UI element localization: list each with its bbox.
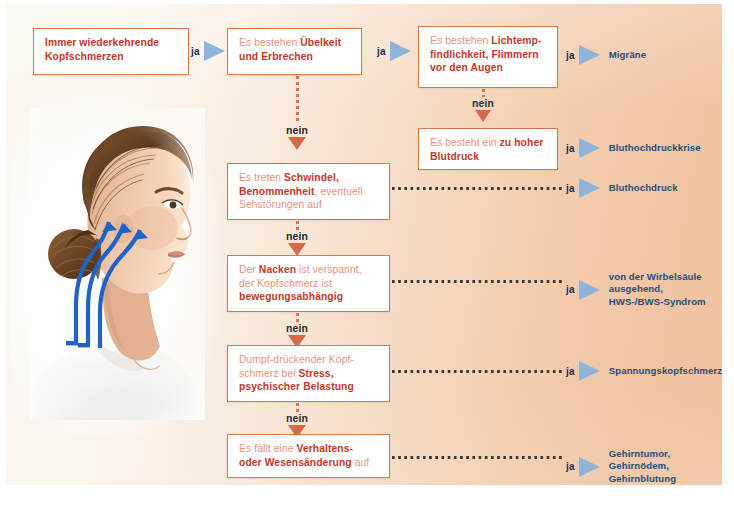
box-stress: Dumpf-drückender Kopf- schmerz bei Stres… <box>227 345 390 402</box>
arrow-right-icon <box>579 280 600 300</box>
box-behaviour-line1: Es fällt eine Verhaltens- <box>239 442 380 456</box>
box-dizziness-line2: Benommenheit, eventuell <box>239 185 380 199</box>
nein-connector-dizziness-to-neck: nein <box>286 221 308 256</box>
box-light-line1: Es bestehen Lichtemp- <box>430 34 548 48</box>
box-stress-line1: Dumpf-drückender Kopf- <box>239 353 380 367</box>
box-nausea-line1: Es bestehen Übelkeit <box>239 36 352 50</box>
box-start: Immer wiederkehrende Kopfschmerzen <box>33 28 189 75</box>
ja-label: ja <box>566 143 575 154</box>
arrow-down-icon <box>288 137 306 150</box>
result-hws-line2: ausgehend, <box>609 283 663 294</box>
result-bluthochdruckkrise: Bluthochdruckkrise <box>609 142 701 154</box>
dotted-line-vertical <box>296 76 299 124</box>
arrow-right-icon <box>579 361 600 381</box>
ja-label: ja <box>566 284 575 295</box>
box-bp-line2: Blutdruck <box>430 150 548 164</box>
box-dizziness: Es treten Schwindel, Benommenheit, event… <box>227 163 390 220</box>
box-bp-line1: Es besteht ein zu hoher <box>430 136 548 150</box>
nein-connector-light-to-bloodpressure: nein <box>472 89 494 122</box>
ja-arrow-to-bluthochdruckkrise: ja Bluthochdruckkrise <box>566 138 701 158</box>
box-neck-line2: der Kopfschmerz ist <box>239 277 380 291</box>
result-migraene: Migräne <box>609 49 646 61</box>
arrow-right-icon <box>579 178 600 198</box>
arrow-right-icon <box>579 138 600 158</box>
box-dizziness-line1: Es treten Schwindel, <box>239 171 380 185</box>
nein-connector-neck-to-stress: nein <box>286 313 308 348</box>
nein-connector-nausea-to-dizziness: nein <box>286 76 308 150</box>
ja-label: ja <box>566 50 575 61</box>
result-hws-line3: HWS-/BWS-Syndrom <box>609 296 706 307</box>
box-behaviour-line2: oder Wesensänderung auf <box>239 456 380 470</box>
ja-label: ja <box>566 183 575 194</box>
box-neck: Der Nacken ist verspannt, der Kopfschmer… <box>227 255 390 312</box>
box-neck-line1: Der Nacken ist verspannt, <box>239 263 380 277</box>
box-start-line1: Immer wiederkehrende <box>45 36 179 50</box>
arrow-right-icon <box>390 41 411 61</box>
flowchart-diagram: Immer wiederkehrende Kopfschmerzen ja Es… <box>0 0 734 511</box>
dotted-line-vertical <box>296 403 299 412</box>
dotted-leader-stress <box>392 370 565 373</box>
box-light-line2: findlichkeit, Flimmern <box>430 48 548 62</box>
box-start-line2: Kopfschmerzen <box>45 50 179 64</box>
arrow-right-icon <box>579 45 600 65</box>
ja-arrow-to-bluthochdruck: ja Bluthochdruck <box>566 178 678 198</box>
box-light-line3: vor den Augen <box>430 61 548 75</box>
box-blood-pressure: Es besteht ein zu hoher Blutdruck <box>418 128 558 170</box>
result-hws-bws-syndrom: von der Wirbelsäule ausgehend, HWS-/BWS-… <box>609 271 727 308</box>
dotted-line-vertical <box>296 221 299 230</box>
nein-label: nein <box>286 231 308 242</box>
nein-label: nein <box>286 323 308 334</box>
ja-arrow-to-migraene: ja Migräne <box>566 45 646 65</box>
ja-arrow-to-gehirn-diagnosen: ja Gehirntumor, Gehirnödem, Gehirnblutun… <box>566 448 719 485</box>
dotted-line-vertical <box>482 89 485 97</box>
result-gehirn-diagnosen: Gehirntumor, Gehirnödem, Gehirnblutung <box>609 448 719 485</box>
ja-label: ja <box>191 46 200 57</box>
ja-arrow-to-hws-syndrom: ja von der Wirbelsäule ausgehend, HWS-/B… <box>566 271 727 308</box>
dotted-line-vertical <box>296 313 299 322</box>
ja-arrow-nausea-to-light: ja <box>377 41 411 61</box>
result-gehirn-line2: Gehirnödem, <box>609 460 669 471</box>
ja-arrow-start-to-nausea: ja <box>191 41 225 61</box>
nein-label: nein <box>286 413 308 424</box>
arrow-down-icon <box>475 110 491 122</box>
box-dizziness-line3: Sehstörungen auf <box>239 198 380 212</box>
box-stress-line2: schmerz bei Stress, <box>239 367 380 381</box>
box-nausea: Es bestehen Übelkeit und Erbrechen <box>227 28 362 75</box>
ja-arrow-to-spannungskopfschmerz: ja Spannungskopfschmerz <box>566 361 722 381</box>
result-bluthochdruck: Bluthochdruck <box>609 182 678 194</box>
result-spannungskopfschmerz: Spannungskopfschmerz <box>609 365 722 377</box>
box-stress-line3: psychischer Belastung <box>239 380 380 394</box>
arrow-right-icon <box>204 41 225 61</box>
nein-connector-stress-to-behaviour: nein <box>286 403 308 438</box>
dotted-leader-dizziness <box>392 187 565 190</box>
box-neck-line3: bewegungsabhängig <box>239 290 380 304</box>
profile-photo <box>30 108 205 420</box>
box-light-sensitivity: Es bestehen Lichtemp- findlichkeit, Flim… <box>418 26 558 88</box>
dotted-leader-behaviour <box>392 456 565 459</box>
result-gehirn-line3: Gehirnblutung <box>609 473 676 484</box>
ja-label: ja <box>566 461 575 472</box>
result-gehirn-line1: Gehirntumor, <box>609 448 670 459</box>
result-hws-line1: von der Wirbelsäule <box>609 271 702 282</box>
dotted-leader-neck <box>392 280 565 283</box>
ja-label: ja <box>377 46 386 57</box>
box-behaviour-change: Es fällt eine Verhaltens- oder Wesensänd… <box>227 434 390 478</box>
ja-label: ja <box>566 366 575 377</box>
nein-label: nein <box>472 98 494 109</box>
nein-label: nein <box>286 125 308 136</box>
box-nausea-line2: und Erbrechen <box>239 50 352 64</box>
arrow-right-icon <box>579 457 600 477</box>
